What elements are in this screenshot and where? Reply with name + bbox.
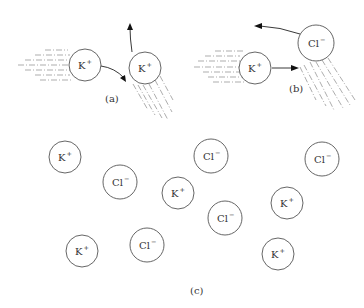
ion-charge: − xyxy=(229,211,234,219)
panel-a: K + K + (a) xyxy=(18,23,173,120)
ion-charge: − xyxy=(124,175,129,183)
ion-charge: + xyxy=(84,244,89,252)
ion-cl-minus: Cl − xyxy=(103,165,137,199)
ion-cl-minus: Cl − xyxy=(130,228,164,262)
ion-charge: − xyxy=(320,36,325,44)
panel-label-b: (b) xyxy=(289,83,303,94)
ion-label: Cl xyxy=(217,213,228,224)
ion-label: K xyxy=(78,60,86,71)
ion-label: K xyxy=(280,198,288,209)
panel-label-c: (c) xyxy=(190,285,204,296)
ion-charge: + xyxy=(280,247,285,255)
ion-label: K xyxy=(271,249,279,260)
ion-k-plus: K + xyxy=(271,187,303,219)
ion-k-plus: K + xyxy=(66,235,98,267)
ion-label: Cl xyxy=(203,151,214,162)
panel-label-a: (a) xyxy=(105,93,119,104)
ion-label: K xyxy=(248,63,256,74)
ion-diagram: K + K + (a) xyxy=(0,0,364,308)
ion-k-plus: K + xyxy=(239,52,271,84)
ion-label: Cl xyxy=(112,177,123,188)
ion-charge: + xyxy=(67,150,72,158)
motion-trail-icon xyxy=(194,51,246,82)
ion-charge: + xyxy=(289,196,294,204)
arrow-right-icon xyxy=(272,65,299,71)
ion-charge: + xyxy=(87,58,92,66)
ion-cl-minus: Cl − xyxy=(208,201,242,235)
ion-charge: + xyxy=(257,61,262,69)
arrow-up-icon xyxy=(127,23,133,52)
motion-trail-icon xyxy=(300,58,355,110)
panel-c: K + Cl − K + Cl − Cl − Cl − xyxy=(49,139,339,296)
ion-cl-minus: Cl − xyxy=(194,139,228,173)
curved-arrow-icon xyxy=(101,66,126,82)
ion-cl-minus: Cl − xyxy=(298,25,334,61)
ion-label: Cl xyxy=(308,38,319,49)
curved-arrow-icon xyxy=(254,23,300,34)
ion-charge: − xyxy=(215,149,220,157)
panel-b: K + Cl − (b) xyxy=(194,23,355,110)
ion-k-plus: K + xyxy=(49,141,81,173)
ion-k-plus: K + xyxy=(129,52,161,84)
ion-k-plus: K + xyxy=(262,238,294,270)
ion-charge: + xyxy=(180,186,185,194)
ion-label: Cl xyxy=(314,154,325,165)
ion-charge: − xyxy=(326,152,331,160)
ion-k-plus: K + xyxy=(162,177,194,209)
motion-trail-icon xyxy=(18,50,72,80)
ion-label: K xyxy=(75,246,83,257)
ion-charge: + xyxy=(147,61,152,69)
ion-label: Cl xyxy=(139,240,150,251)
ion-k-plus: K + xyxy=(69,49,101,81)
ion-cl-minus: Cl − xyxy=(305,142,339,176)
ion-label: K xyxy=(58,152,66,163)
ion-label: K xyxy=(138,63,146,74)
ion-charge: − xyxy=(151,238,156,246)
ion-label: K xyxy=(171,188,179,199)
